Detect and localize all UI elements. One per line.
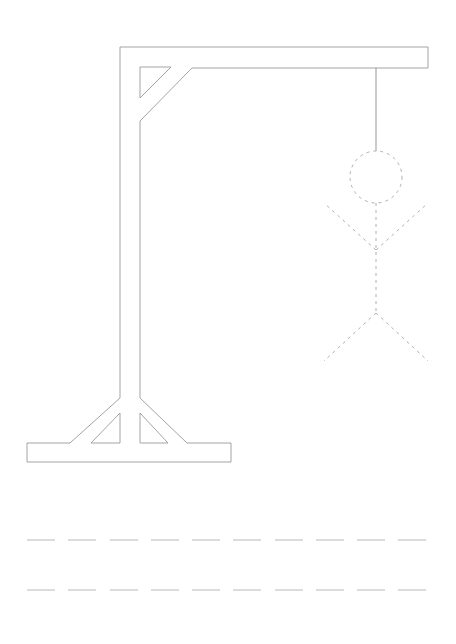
figure-head bbox=[350, 151, 402, 203]
figure-right-leg bbox=[376, 313, 428, 361]
gallows-left-base-brace bbox=[91, 413, 120, 443]
hangman-board bbox=[0, 0, 456, 644]
gallows bbox=[27, 47, 428, 462]
figure-right-arm bbox=[376, 203, 428, 250]
figure-left-leg bbox=[324, 313, 376, 361]
gallows-outline bbox=[27, 47, 428, 462]
gallows-right-base-brace bbox=[140, 413, 168, 443]
gallows-upper-brace bbox=[140, 67, 171, 98]
hanged-figure bbox=[324, 151, 428, 361]
figure-left-arm bbox=[324, 203, 376, 250]
